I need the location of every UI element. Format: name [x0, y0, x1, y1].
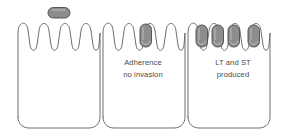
adherent-bacterium-middle-1 [140, 24, 152, 47]
epithelial-adherence-diagram: Adherence no invasion LT and ST produced [0, 0, 287, 133]
adherent-bacterium-right-4 [248, 25, 260, 47]
caption-adherence-line-2: no invasion [101, 69, 185, 81]
cell-left [18, 23, 100, 128]
caption-toxins-line-2: produced [187, 69, 279, 81]
free-floating-bacterium [48, 8, 70, 19]
caption-adherence: Adherence no invasion [101, 57, 185, 80]
caption-toxins: LT and ST produced [187, 57, 279, 80]
caption-toxins-line-1: LT and ST [187, 57, 279, 69]
caption-adherence-line-1: Adherence [101, 57, 185, 69]
adherent-bacterium-right-1 [196, 25, 208, 47]
adherent-bacterium-right-2 [212, 25, 224, 47]
cell-left-outline [18, 23, 100, 128]
adherent-bacterium-right-3 [228, 25, 240, 47]
